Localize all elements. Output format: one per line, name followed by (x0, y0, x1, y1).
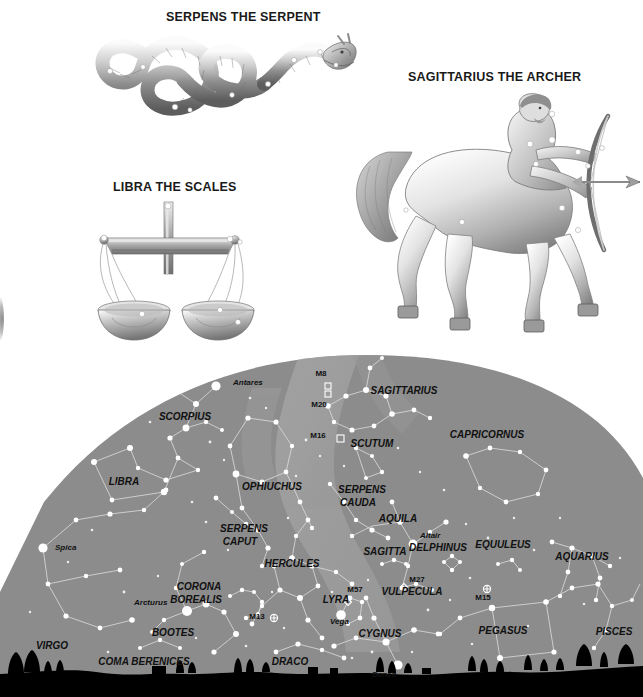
star-label-deneb: Deneb (372, 670, 397, 679)
messier-label-m13: M13 (249, 612, 265, 621)
constellation-label-equuleus: EQUULEUS (475, 539, 531, 550)
constellation-label-vulpecula: VULPECULA (381, 586, 442, 597)
plate-page: SERPENS THE SERPENT (0, 0, 643, 697)
star-label-altair: Altair (419, 531, 441, 540)
messier-label-m57: M57 (347, 585, 363, 594)
star-label-vega: Vega (330, 617, 349, 626)
constellation-label-sagitta: SAGITTA (363, 546, 406, 557)
constellation-label-borealis: BOREALIS (170, 594, 222, 605)
messier-label-m27: M27 (409, 575, 425, 584)
constellation-label-hercules: HERCULES (264, 558, 319, 569)
constellation-label-cauda: CAUDA (340, 497, 376, 508)
sagittarius-illustration (340, 92, 643, 342)
constellation-label-virgo: VIRGO (36, 640, 68, 651)
star-label-arcturus: Arcturus (133, 598, 168, 607)
constellation-label-capricornus: CAPRICORNUS (450, 429, 525, 440)
constellation-label-delphinus: DELPHINUS (409, 542, 467, 553)
constellation-label-scorpius: SCORPIUS (159, 411, 212, 422)
star-chart[interactable]: SCORPIUSSAGITTARIUSLIBRAOPHIUCHUSSCUTUMC… (0, 352, 643, 697)
constellation-label-sagittarius: SAGITTARIUS (370, 385, 437, 396)
m15-globular-glyph (483, 585, 490, 592)
constellation-label-cygnus: CYGNUS (359, 628, 402, 639)
messier-label-m20: M20 (311, 400, 327, 409)
messier-label-m16: M16 (310, 431, 326, 440)
constellation-label-scutum: SCUTUM (351, 438, 394, 449)
constellation-label-pegasus: PEGASUS (479, 625, 528, 636)
caption-libra: LIBRA THE SCALES (113, 180, 237, 194)
messier-label-m8: M8 (315, 369, 327, 378)
constellation-label-draco: DRACO (272, 656, 309, 667)
constellation-label-aquarius: AQUARIUS (554, 551, 609, 562)
libra-illustration (78, 198, 263, 353)
caption-sagittarius: SAGITTARIUS THE ARCHER (408, 70, 581, 84)
serpens-illustration (80, 22, 360, 142)
m13-globular-glyph (270, 614, 277, 621)
constellation-label-corona: CORONA (177, 581, 221, 592)
constellation-label-ophiuchus: OPHIUCHUS (242, 481, 302, 492)
constellation-label-serpens: SERPENS (338, 484, 386, 495)
star-label-spica: Spica (55, 543, 77, 552)
constellation-label-pisces: PISCES (596, 626, 633, 637)
constellation-label-libra: LIBRA (109, 476, 140, 487)
star-label-antares: Antares (232, 378, 263, 387)
messier-label-m15: M15 (475, 593, 491, 602)
constellation-label-serpens: SERPENS (220, 523, 268, 534)
constellation-label-aquila: AQUILA (378, 513, 417, 524)
constellation-label-bootes: BOOTES (152, 627, 195, 638)
constellation-label-lyra: LYRA (323, 594, 349, 605)
page-binding-edge (0, 296, 4, 342)
constellation-label-coma-berenices: COMA BERENICES (98, 656, 190, 667)
constellation-label-caput: CAPUT (223, 536, 258, 547)
